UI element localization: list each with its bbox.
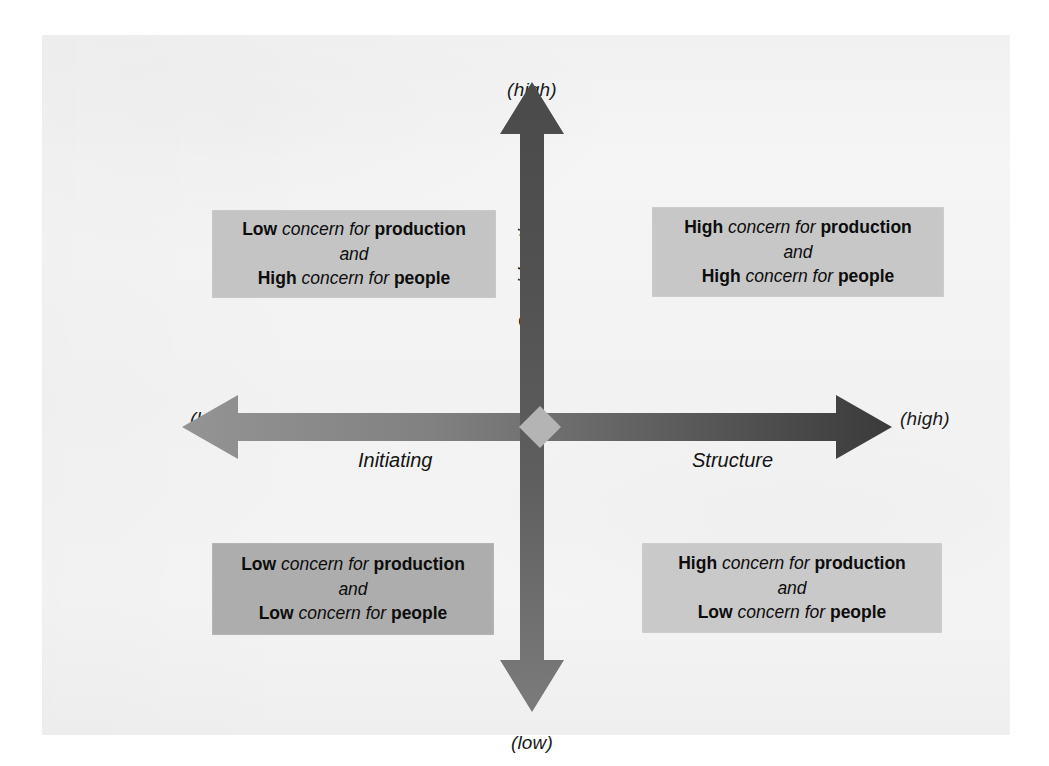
quadrant-line-2: Low concern for people (698, 600, 887, 625)
quadrant-line-1: High concern for production (684, 215, 912, 240)
quadrant-box-bottom-right: High concern for production and Low conc… (642, 543, 942, 633)
quadrant-line1-level: Low (242, 219, 277, 239)
quadrant-line-1: Low concern for production (241, 552, 465, 577)
quadrant-line2-level: High (702, 266, 741, 286)
quadrant-conjunction-text: and (783, 242, 812, 262)
quadrant-conjunction-text: and (338, 579, 367, 599)
quadrant-line-2: High concern for people (258, 266, 451, 291)
quadrant-line1-phrase: concern for (728, 217, 816, 237)
quadrant-line2-phrase: concern for (745, 266, 833, 286)
quadrant-line1-subject: production (814, 553, 905, 573)
quadrant-conjunction: and (338, 577, 367, 602)
quadrant-line2-subject: people (391, 603, 447, 623)
quadrant-line1-level: High (678, 553, 717, 573)
quadrant-line-1: High concern for production (678, 551, 906, 576)
quadrant-line2-subject: people (830, 602, 886, 622)
quadrant-conjunction: and (339, 242, 368, 267)
quadrant-line2-level: Low (698, 602, 733, 622)
quadrant-line1-level: High (684, 217, 723, 237)
quadrant-line2-phrase: concern for (299, 603, 387, 623)
quadrant-line2-subject: people (838, 266, 894, 286)
quadrant-line2-level: Low (259, 603, 294, 623)
quadrant-line1-subject: production (373, 554, 464, 574)
quadrant-conjunction: and (783, 240, 812, 265)
quadrant-line-2: Low concern for people (259, 601, 448, 626)
quadrant-conjunction-text: and (339, 244, 368, 264)
quadrant-line-2: High concern for people (702, 264, 895, 289)
quadrant-line2-level: High (258, 268, 297, 288)
quadrant-line1-level: Low (241, 554, 276, 574)
quadrant-box-top-right: High concern for production and High con… (652, 207, 944, 297)
quadrant-line1-phrase: concern for (722, 553, 810, 573)
axis-center-diamond-marker (518, 405, 562, 449)
quadrant-conjunction: and (777, 576, 806, 601)
quadrant-line2-phrase: concern for (301, 268, 389, 288)
quadrant-line1-phrase: concern for (282, 219, 370, 239)
quadrant-line1-phrase: concern for (281, 554, 369, 574)
quadrant-line2-phrase: concern for (738, 602, 826, 622)
quadrant-line1-subject: production (374, 219, 465, 239)
horizontal-axis-high-label: (high) (900, 408, 950, 430)
quadrant-line-1: Low concern for production (242, 217, 466, 242)
vertical-axis-arrow (498, 82, 566, 712)
quadrant-box-top-left: Low concern for production and High conc… (212, 210, 496, 298)
quadrant-conjunction-text: and (777, 578, 806, 598)
figure-panel: (high) (low) (low) (high) Initiating Str… (42, 35, 1010, 735)
quadrant-box-bottom-left: Low concern for production and Low conce… (212, 543, 494, 635)
vertical-axis-low-label: (low) (498, 732, 566, 754)
scan-page: (high) (low) (low) (high) Initiating Str… (0, 0, 1049, 766)
quadrant-line2-subject: people (394, 268, 450, 288)
quadrant-line1-subject: production (820, 217, 911, 237)
